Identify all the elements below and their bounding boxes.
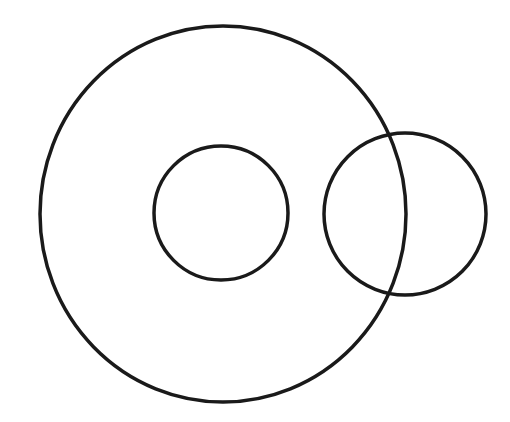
diagram-canvas bbox=[0, 0, 510, 422]
inner-circle bbox=[154, 146, 288, 280]
circles-diagram bbox=[0, 0, 510, 422]
outer-circle bbox=[40, 26, 406, 402]
